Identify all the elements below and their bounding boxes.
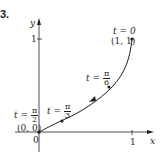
direction-arrow-icon (89, 96, 96, 102)
x-axis-arrow-icon (147, 130, 154, 134)
x-axis-label: x (150, 137, 155, 146)
t0-label: t = 0 (113, 27, 136, 36)
t-pi-2-label: t = π2 (14, 107, 38, 124)
point-0-0-label: (0, 0) (17, 124, 41, 133)
point-1-1-label: (1, 1) (111, 37, 135, 46)
y-tick-label: 1 (31, 35, 37, 44)
y-axis-arrow-icon (37, 18, 41, 25)
x-tick-label: 1 (130, 138, 136, 147)
t-pi-6-label: t = π6 (86, 70, 110, 87)
origin-label: 0 (33, 136, 39, 145)
t-pi-3-label: t = π3 (47, 103, 71, 120)
y-axis-label: y (30, 19, 35, 28)
